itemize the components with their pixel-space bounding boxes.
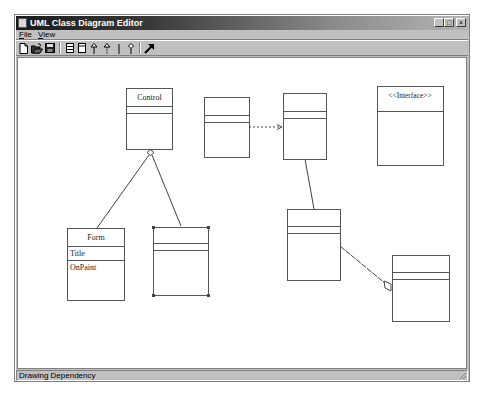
save-button[interactable] <box>44 42 56 54</box>
realization-button[interactable] <box>101 42 113 54</box>
generalization-line[interactable] <box>152 155 181 226</box>
status-bar: Drawing Dependency <box>16 370 468 381</box>
class-box[interactable] <box>284 94 327 160</box>
menu-view-label: iew <box>43 30 55 39</box>
resize-grip-icon[interactable] <box>458 371 467 380</box>
association-button[interactable] <box>113 42 125 54</box>
close-button[interactable]: × <box>456 18 466 27</box>
toolbar-separator <box>139 42 141 54</box>
interface-button[interactable] <box>76 42 88 54</box>
class-control[interactable]: Control <box>127 89 173 150</box>
class-selected[interactable] <box>152 226 210 297</box>
new-button[interactable] <box>18 42 30 54</box>
class-box[interactable] <box>393 256 450 322</box>
app-icon[interactable] <box>18 18 27 28</box>
window-title: UML Class Diagram Editor <box>30 17 143 29</box>
minimize-button[interactable]: _ <box>434 18 444 27</box>
diagram-svg[interactable]: Control Form Title OnPaint <box>18 58 467 369</box>
class-form[interactable]: Form Title OnPaint <box>68 229 125 301</box>
generalization-line[interactable] <box>97 155 149 228</box>
resize-handle[interactable] <box>152 226 155 229</box>
class-box[interactable] <box>288 210 341 281</box>
class-name: Control <box>137 93 162 102</box>
class-attribute: Title <box>70 249 85 258</box>
class-icon <box>66 43 74 53</box>
menu-file-label: ile <box>24 30 32 39</box>
menu-file[interactable]: File <box>19 30 32 39</box>
association-icon <box>117 43 121 54</box>
close-icon: × <box>459 19 463 26</box>
aggregation-icon <box>127 43 135 54</box>
dependency-icon <box>144 43 155 54</box>
aggregation-line[interactable] <box>340 246 386 284</box>
association-line[interactable] <box>305 159 314 209</box>
resize-handle[interactable] <box>207 294 210 297</box>
save-icon <box>45 43 55 53</box>
toolbar <box>16 39 468 56</box>
aggregation-button[interactable] <box>125 42 137 54</box>
diagram-canvas[interactable]: Control Form Title OnPaint <box>17 57 467 369</box>
open-icon <box>31 43 43 54</box>
minimize-icon: _ <box>437 19 441 26</box>
app-window: UML Class Diagram Editor _ □ × File View <box>14 14 470 382</box>
menu-bar: File View <box>16 30 468 39</box>
toolbar-separator <box>59 42 61 54</box>
open-button[interactable] <box>31 42 43 54</box>
generalization-icon <box>90 43 98 54</box>
generalization-button[interactable] <box>88 42 100 54</box>
interface-stereotype: <<Interface>> <box>388 91 432 100</box>
aggregation-diamond <box>384 281 391 291</box>
generalization-arrowhead <box>147 150 154 156</box>
class-button[interactable] <box>64 42 76 54</box>
dependency-button[interactable] <box>143 42 155 54</box>
resize-handle[interactable] <box>152 294 155 297</box>
status-text: Drawing Dependency <box>19 371 96 380</box>
menu-view[interactable]: View <box>38 30 55 39</box>
maximize-button[interactable]: □ <box>444 18 454 27</box>
new-icon <box>19 43 29 54</box>
interface-icon <box>78 43 86 53</box>
realization-icon <box>103 43 111 54</box>
interface-box[interactable]: <<Interface>> <box>378 87 444 166</box>
resize-handle[interactable] <box>207 226 210 229</box>
maximize-icon: □ <box>447 19 451 26</box>
class-box[interactable] <box>205 98 250 158</box>
class-operation: OnPaint <box>70 263 97 272</box>
title-bar[interactable]: UML Class Diagram Editor _ □ × <box>16 16 468 30</box>
class-name: Form <box>87 233 105 242</box>
